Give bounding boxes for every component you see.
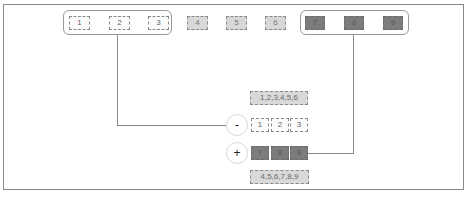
item-4: 4	[187, 16, 208, 30]
result-label-union: 4,5,6,7,8,9	[250, 170, 309, 184]
item-7: 7	[305, 16, 325, 30]
diff-item-2: 2	[271, 118, 289, 132]
connector-left-horizontal	[117, 125, 227, 126]
minus-operator-icon: -	[226, 114, 248, 136]
connector-left-vertical	[117, 35, 118, 126]
connector-right-vertical	[353, 35, 354, 154]
union-item-9: 9	[290, 146, 308, 160]
item-5: 5	[226, 16, 247, 30]
union-item-8: 8	[271, 146, 289, 160]
item-3: 3	[148, 16, 169, 30]
diff-item-1: 1	[251, 118, 269, 132]
connector-right-horizontal	[308, 153, 354, 154]
item-2: 2	[109, 16, 130, 30]
item-9: 9	[383, 16, 403, 30]
item-1: 1	[69, 16, 90, 30]
item-8: 8	[344, 16, 364, 30]
result-label-difference: 1,2,3,4,5,6	[250, 91, 308, 105]
diff-item-3: 3	[290, 118, 308, 132]
plus-operator-icon: +	[226, 142, 248, 164]
union-item-7: 7	[251, 146, 269, 160]
item-6: 6	[265, 16, 286, 30]
